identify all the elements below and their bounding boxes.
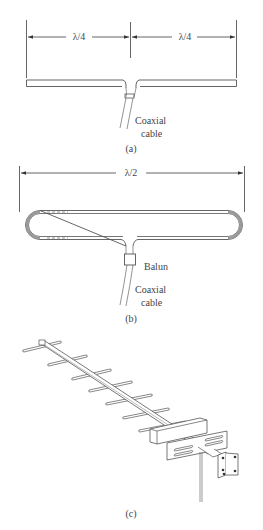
- cable-label: cable: [141, 297, 163, 308]
- mast-clamp-plate: [226, 453, 238, 475]
- balun-label: Balun: [144, 261, 168, 272]
- folded-dipole-outer: [26, 211, 243, 247]
- bend-shade-right: [228, 211, 242, 240]
- dipole-right-rod: [136, 80, 237, 88]
- panel-caption-b: (b): [125, 313, 137, 325]
- folded-dipole-inner: [29, 214, 240, 237]
- feed-lines: [126, 246, 133, 254]
- panel-caption-c: (c): [125, 508, 136, 520]
- dimension-label-right: λ/4: [179, 31, 192, 42]
- dipole-left-rod: [27, 80, 127, 88]
- balun-box: [125, 254, 136, 265]
- bend-shade-left: [26, 211, 40, 240]
- dimension-label: λ/2: [125, 167, 138, 178]
- coaxial-cable: [120, 98, 133, 129]
- downlead-cable: [200, 452, 202, 502]
- cable-label: Coaxial: [135, 115, 166, 126]
- boom-end-cap: [39, 340, 45, 345]
- feed-point: [126, 88, 136, 97]
- panel-b-folded-dipole: λ/2 Balun Coaxial cable (b): [20, 166, 245, 325]
- coaxial-cable: [120, 265, 133, 306]
- panel-caption-a: (a): [125, 143, 136, 155]
- dimension-label-left: λ/4: [73, 31, 86, 42]
- panel-c-yagi: (c): [23, 340, 238, 520]
- antenna-figure: λ/4 λ/4 Coaxial cable (a) λ/2 Balun Coa: [0, 0, 263, 530]
- panel-a-dipole: λ/4 λ/4 Coaxial cable (a): [27, 20, 237, 155]
- cable-label: cable: [141, 128, 163, 139]
- cable-label: Coaxial: [135, 284, 166, 295]
